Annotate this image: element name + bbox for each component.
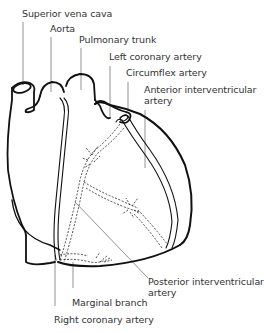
label-aorta: Aorta xyxy=(50,23,75,34)
label-circumflex-artery: Circumflex artery xyxy=(126,67,207,78)
label-anterior-interventricular-1: Anterior interventricular xyxy=(144,84,256,95)
label-anterior-interventricular-2: artery xyxy=(144,95,172,106)
label-pulmonary-trunk: Pulmonary trunk xyxy=(79,34,156,45)
label-posterior-interventricular-2: artery xyxy=(148,287,176,298)
posterior-vessels xyxy=(60,124,168,263)
coronary-vessels xyxy=(54,98,178,260)
label-superior-vena-cava: Superior vena cava xyxy=(22,8,112,19)
label-left-coronary-artery: Left coronary artery xyxy=(109,51,202,62)
label-marginal-branch: Marginal branch xyxy=(72,297,147,308)
label-right-coronary-artery: Right coronary artery xyxy=(54,314,154,325)
label-posterior-interventricular-1: Posterior interventricular xyxy=(148,276,264,287)
